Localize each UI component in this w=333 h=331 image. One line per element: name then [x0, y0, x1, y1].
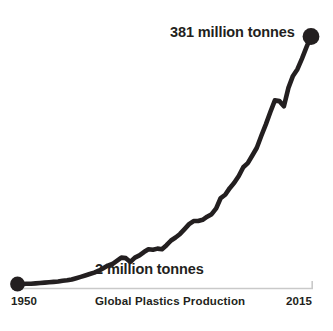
start-point-marker — [10, 277, 25, 292]
end-point-marker — [303, 28, 320, 45]
chart-caption: Global Plastics Production — [95, 295, 245, 307]
x-axis-start-label: 1950 — [11, 295, 37, 307]
chart-plot-area — [0, 0, 333, 331]
production-trend-line — [18, 37, 312, 284]
plastics-production-chart: 381 million tonnes 2 million tonnes 1950… — [0, 0, 333, 331]
end-value-annotation: 381 million tonnes — [170, 24, 295, 40]
x-axis-end-label: 2015 — [286, 295, 312, 307]
start-value-annotation: 2 million tonnes — [95, 261, 204, 277]
